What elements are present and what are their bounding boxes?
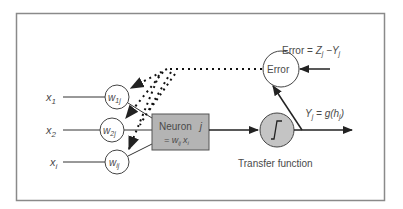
neuron-diagram: x1 x2 xi w1j w2j wij: [0, 0, 403, 209]
weight-node-i: wij: [105, 150, 129, 174]
diagram-frame: [17, 14, 385, 201]
weight-node-1: w1j: [105, 85, 129, 109]
transfer-function-caption: Transfer function: [238, 158, 313, 169]
neuron-box: Neuronj = wijxi: [152, 114, 209, 150]
error-node: Error: [263, 51, 299, 87]
svg-text:Error: Error: [267, 64, 290, 75]
transfer-function-node: [260, 113, 294, 147]
weight-node-2: w2j: [100, 118, 124, 142]
svg-text:= wijxi: = wijxi: [164, 135, 189, 146]
